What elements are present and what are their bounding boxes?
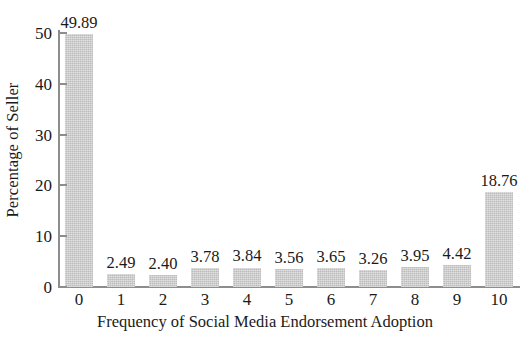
y-axis-tick-label: 40 [22, 76, 52, 93]
y-axis-tick-mark [60, 184, 67, 186]
y-axis-tick-labels: 01020304050 [20, 0, 52, 337]
y-axis-tick-mark [60, 286, 67, 288]
y-axis-tick-label: 10 [22, 228, 52, 245]
y-axis-tick-mark [60, 235, 67, 237]
x-axis-tick-label: 9 [437, 291, 477, 308]
x-axis-tick-label: 0 [59, 291, 99, 308]
x-axis-title: Frequency of Social Media Endorsement Ad… [0, 312, 530, 332]
y-axis-tick-label: 0 [22, 279, 52, 296]
x-axis-tick-label: 1 [101, 291, 141, 308]
bar-value-labels-layer: 49.892.492.403.783.843.563.653.263.954.4… [58, 33, 520, 293]
y-axis-tick-mark [60, 134, 67, 136]
y-axis-tick-mark [60, 32, 67, 34]
x-axis-tick-label: 5 [269, 291, 309, 308]
bar-value-label: 4.42 [429, 246, 485, 263]
x-axis-tick-label: 3 [185, 291, 225, 308]
x-axis-tick-label: 2 [143, 291, 183, 308]
x-axis-tick-label: 7 [353, 291, 393, 308]
x-axis-tick-label: 4 [227, 291, 267, 308]
x-axis-tick-label: 6 [311, 291, 351, 308]
y-axis-tick-label: 20 [22, 177, 52, 194]
y-axis-tick-mark [60, 83, 67, 85]
x-axis-tick-label: 8 [395, 291, 435, 308]
bar-value-label: 18.76 [471, 173, 527, 190]
x-axis-tick-label: 10 [479, 291, 519, 308]
bar-chart-figure: Percentage of Seller 01020304050 49.892.… [0, 0, 530, 337]
y-axis-tick-label: 30 [22, 127, 52, 144]
bar-value-label: 49.89 [51, 15, 107, 32]
y-axis-tick-label: 50 [22, 25, 52, 42]
